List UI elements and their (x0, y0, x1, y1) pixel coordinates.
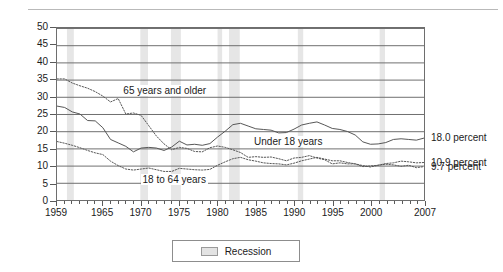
x-tick-1968 (125, 201, 126, 204)
x-tick-1977 (194, 201, 195, 204)
x-tick-1972 (156, 201, 157, 204)
x-tick-2002 (387, 201, 388, 204)
y-tick-label-0: 0 (24, 196, 48, 206)
y-tick-label-30: 30 (24, 92, 48, 102)
x-tick-1981 (225, 201, 226, 204)
x-tick-1965 (102, 201, 103, 206)
series-line-1 (57, 106, 424, 152)
x-tick-label-1970: 1970 (121, 207, 161, 218)
recession-swatch-icon (201, 247, 218, 256)
x-tick-1982 (233, 201, 234, 204)
x-tick-1960 (64, 201, 65, 204)
plot-area (56, 27, 425, 201)
y-tick-label-35: 35 (24, 74, 48, 84)
x-tick-1979 (210, 201, 211, 204)
x-tick-1993 (317, 201, 318, 204)
x-tick-1971 (148, 201, 149, 204)
gridlines-group (57, 28, 424, 183)
x-tick-1992 (310, 201, 311, 204)
x-tick-1997 (348, 201, 349, 204)
x-tick-2000 (371, 201, 372, 206)
series-line-2 (57, 142, 424, 172)
poverty-rate-chart-figure: Percent 50454035302520151050 19591965197… (0, 0, 503, 272)
x-tick-1970 (141, 201, 142, 206)
y-tick-label-10: 10 (24, 161, 48, 171)
x-tick-1976 (187, 201, 188, 204)
x-tick-label-1980: 1980 (197, 207, 237, 218)
x-tick-2007 (425, 201, 426, 206)
x-tick-2006 (417, 201, 418, 204)
series-label-2: 18 to 64 years (141, 174, 208, 185)
x-tick-1974 (171, 201, 172, 204)
x-tick-1980 (217, 201, 218, 206)
x-tick-1983 (241, 201, 242, 204)
x-tick-1991 (302, 201, 303, 204)
x-tick-1963 (87, 201, 88, 204)
x-tick-label-1995: 1995 (313, 207, 353, 218)
x-tick-1978 (202, 201, 203, 204)
x-tick-1985 (256, 201, 257, 206)
y-tick-label-45: 45 (24, 39, 48, 49)
x-tick-2004 (402, 201, 403, 204)
x-tick-label-1959: 1959 (36, 207, 76, 218)
series-lines-group (57, 79, 424, 172)
x-tick-1984 (248, 201, 249, 204)
y-tick-label-20: 20 (24, 126, 48, 136)
x-tick-1989 (287, 201, 288, 204)
x-tick-1998 (356, 201, 357, 204)
y-tick-label-50: 50 (24, 22, 48, 32)
y-tick-label-15: 15 (24, 144, 48, 154)
plot-svg (57, 28, 424, 200)
x-tick-2001 (379, 201, 380, 204)
x-tick-1995 (333, 201, 334, 206)
x-tick-1967 (118, 201, 119, 204)
x-tick-label-1990: 1990 (274, 207, 314, 218)
top-divider-rule (28, 9, 498, 10)
x-tick-label-2007: 2007 (405, 207, 445, 218)
series-label-1: Under 18 years (252, 136, 324, 147)
x-tick-1964 (94, 201, 95, 204)
x-tick-1999 (364, 201, 365, 204)
x-tick-label-2000: 2000 (351, 207, 391, 218)
series-label-0: 65 years and older (121, 85, 208, 96)
x-tick-1969 (133, 201, 134, 204)
x-tick-2003 (394, 201, 395, 204)
x-tick-1987 (271, 201, 272, 204)
x-tick-1988 (279, 201, 280, 204)
x-tick-1959 (56, 201, 57, 206)
legend-label-recession: Recession (225, 246, 272, 257)
x-tick-1966 (110, 201, 111, 204)
x-tick-label-1975: 1975 (159, 207, 199, 218)
end-label-2: 9.7 percent (431, 161, 481, 172)
x-tick-1961 (71, 201, 72, 204)
x-tick-label-1985: 1985 (236, 207, 276, 218)
y-tick-label-25: 25 (24, 109, 48, 119)
x-tick-1990 (294, 201, 295, 206)
y-tick-label-5: 5 (24, 179, 48, 189)
x-tick-1962 (79, 201, 80, 204)
x-tick-label-1965: 1965 (82, 207, 122, 218)
x-tick-1986 (264, 201, 265, 204)
x-tick-1973 (164, 201, 165, 204)
end-label-0: 18.0 percent (431, 132, 487, 143)
x-tick-2005 (410, 201, 411, 204)
x-tick-1994 (325, 201, 326, 204)
x-tick-1975 (179, 201, 180, 206)
y-tick-label-40: 40 (24, 57, 48, 67)
x-tick-1996 (340, 201, 341, 204)
legend-box: Recession (172, 240, 300, 262)
